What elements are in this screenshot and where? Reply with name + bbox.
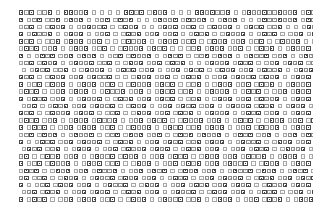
filled-square-glyph bbox=[233, 154, 237, 158]
missing-glyph-box bbox=[218, 190, 222, 194]
word-space bbox=[178, 75, 180, 79]
filled-square-glyph bbox=[19, 10, 23, 14]
filled-square-glyph bbox=[307, 25, 311, 29]
missing-glyph-box-light bbox=[126, 82, 130, 86]
word-space bbox=[311, 75, 313, 79]
missing-glyph-box-light bbox=[45, 18, 49, 22]
missing-glyph-box-light bbox=[118, 154, 122, 158]
filled-square-glyph bbox=[50, 161, 54, 165]
missing-glyph-box-light bbox=[272, 89, 276, 93]
filled-square-glyph bbox=[248, 118, 252, 122]
word-space bbox=[69, 190, 71, 194]
filled-square-glyph bbox=[170, 97, 174, 101]
missing-glyph-box-light bbox=[220, 169, 224, 173]
filled-square-glyph bbox=[262, 68, 266, 72]
word-space bbox=[58, 118, 60, 122]
missing-glyph-box bbox=[175, 61, 179, 65]
filled-square-glyph bbox=[147, 161, 151, 165]
missing-glyph-box bbox=[233, 161, 237, 165]
filled-square-glyph bbox=[82, 190, 86, 194]
word-space bbox=[74, 125, 76, 129]
word-space bbox=[32, 54, 34, 58]
filled-square-glyph bbox=[262, 190, 266, 194]
word-space bbox=[298, 10, 300, 14]
missing-glyph-box-light bbox=[278, 46, 282, 50]
filled-square-glyph bbox=[296, 89, 300, 93]
word-space bbox=[66, 46, 68, 50]
missing-glyph-box bbox=[37, 176, 41, 180]
filled-square-glyph bbox=[264, 147, 268, 151]
filled-square-glyph bbox=[129, 10, 133, 14]
missing-glyph-box-light bbox=[27, 32, 31, 36]
word-space bbox=[126, 118, 128, 122]
missing-glyph-box-light bbox=[64, 32, 68, 36]
word-space bbox=[262, 89, 264, 93]
word-space bbox=[308, 169, 310, 173]
missing-glyph-box-light bbox=[69, 25, 73, 29]
filled-square-glyph bbox=[124, 10, 128, 14]
missing-glyph-box-light bbox=[37, 75, 41, 79]
missing-glyph-box bbox=[150, 183, 154, 187]
word-space bbox=[254, 169, 256, 173]
word-space bbox=[223, 104, 225, 108]
filled-square-glyph bbox=[251, 75, 255, 79]
word-space bbox=[165, 176, 167, 180]
word-space bbox=[251, 183, 253, 187]
word-space bbox=[123, 104, 125, 108]
missing-glyph-box bbox=[105, 104, 109, 108]
missing-glyph-box-light bbox=[118, 176, 122, 180]
missing-glyph-box bbox=[243, 61, 247, 65]
word-space bbox=[202, 125, 204, 129]
filled-square-glyph bbox=[92, 54, 96, 58]
filled-square-glyph bbox=[293, 154, 297, 158]
missing-glyph-box-light bbox=[294, 68, 298, 72]
missing-glyph-box-light bbox=[155, 75, 159, 79]
missing-glyph-box bbox=[288, 18, 292, 22]
missing-glyph-box bbox=[288, 133, 292, 137]
missing-glyph-box bbox=[191, 82, 195, 86]
missing-glyph-box bbox=[145, 68, 149, 72]
filled-square-glyph bbox=[301, 176, 305, 180]
missing-glyph-box-light bbox=[147, 118, 151, 122]
missing-glyph-box-light bbox=[50, 125, 54, 129]
missing-glyph-box bbox=[134, 61, 138, 65]
word-space bbox=[270, 54, 272, 58]
word-space bbox=[311, 183, 313, 187]
filled-square-glyph bbox=[160, 97, 164, 101]
missing-glyph-box bbox=[238, 169, 242, 173]
text-line bbox=[19, 9, 313, 16]
missing-glyph-box-light bbox=[226, 104, 230, 108]
word-space bbox=[58, 46, 60, 50]
missing-glyph-box bbox=[296, 82, 300, 86]
missing-glyph-box bbox=[150, 140, 154, 144]
filled-square-glyph bbox=[293, 18, 297, 22]
missing-glyph-box bbox=[24, 61, 28, 65]
missing-glyph-box bbox=[243, 169, 247, 173]
word-space bbox=[113, 10, 115, 14]
filled-square-glyph bbox=[69, 54, 73, 58]
missing-glyph-box-light bbox=[155, 111, 159, 115]
filled-square-glyph bbox=[228, 161, 232, 165]
word-space bbox=[48, 169, 50, 173]
word-space bbox=[228, 190, 230, 194]
word-space bbox=[283, 197, 285, 201]
missing-glyph-box-light bbox=[178, 118, 182, 122]
filled-square-glyph bbox=[82, 82, 86, 86]
filled-square-glyph bbox=[42, 97, 46, 101]
missing-glyph-box bbox=[142, 111, 146, 115]
filled-square-glyph bbox=[97, 118, 101, 122]
filled-square-glyph bbox=[189, 89, 193, 93]
missing-glyph-box bbox=[79, 89, 83, 93]
missing-glyph-box-light bbox=[27, 197, 31, 201]
missing-glyph-box-light bbox=[37, 39, 41, 43]
filled-square-glyph bbox=[306, 133, 310, 137]
word-space bbox=[139, 176, 141, 180]
filled-square-glyph bbox=[139, 89, 143, 93]
missing-glyph-box bbox=[160, 111, 164, 115]
word-space bbox=[48, 89, 50, 93]
filled-square-glyph bbox=[194, 183, 198, 187]
missing-glyph-box-light bbox=[236, 197, 240, 201]
filled-square-glyph bbox=[29, 75, 33, 79]
missing-glyph-box bbox=[134, 118, 138, 122]
word-space bbox=[222, 118, 224, 122]
